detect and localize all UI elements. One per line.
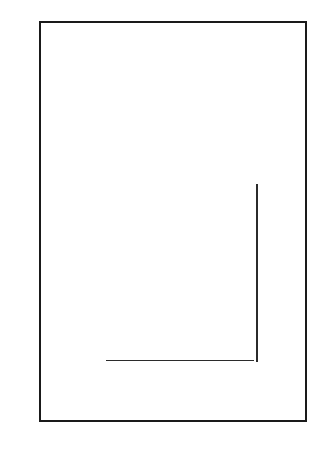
left-axis-ticks — [0, 0, 36, 459]
inset-histogram — [106, 186, 254, 362]
histogram-baseline — [106, 360, 254, 361]
bottom-axis-line — [39, 420, 307, 422]
right-axis-line — [256, 184, 258, 362]
probability-plot-figure — [0, 0, 325, 459]
